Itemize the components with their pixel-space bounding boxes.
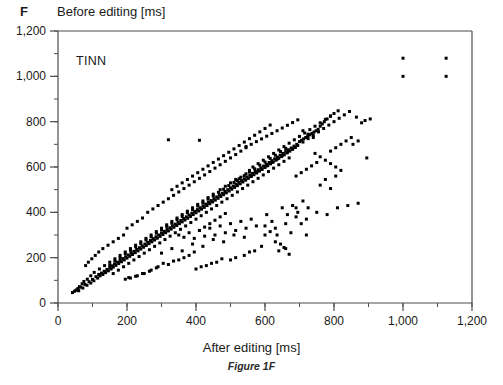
data-point [208,222,211,225]
data-point [215,204,218,207]
data-point [250,143,253,146]
data-point [89,274,92,277]
data-point [170,247,173,250]
data-point [207,164,210,167]
data-point [145,244,148,247]
data-point [239,220,242,223]
scatter-plot-canvas [0,0,503,385]
data-point [198,177,201,180]
data-point [336,206,339,209]
data-point [250,218,253,221]
data-point [181,249,184,252]
data-point [191,243,194,246]
data-point [245,146,248,149]
data-point [319,121,322,124]
data-point [355,116,358,119]
data-point [232,181,235,184]
data-point [107,244,110,247]
data-point [253,249,256,252]
data-point [277,249,280,252]
data-point [260,137,263,140]
data-point [213,234,216,237]
data-point [129,247,132,250]
data-point [203,226,206,229]
data-point [264,127,267,130]
data-point [324,159,327,162]
data-point [108,261,111,264]
data-point [142,246,145,249]
data-point [234,229,237,232]
data-point [229,258,232,261]
data-point [293,138,296,141]
data-point [269,124,272,127]
data-point [132,258,135,261]
data-point [155,230,158,233]
data-point [241,187,244,190]
data-point [265,164,268,167]
data-point [248,251,251,254]
y-tick-label: 1,200 [0,25,46,37]
x-axis-title: After editing [ms] [0,340,503,355]
data-point [333,112,336,115]
data-point [170,228,173,231]
data-point [243,141,246,144]
data-point [192,213,195,216]
data-point [117,237,120,240]
data-point [334,175,337,178]
data-point [184,224,187,227]
data-point [188,231,191,234]
data-point [172,194,175,197]
x-tick-label: 1,000 [373,315,433,327]
data-point [334,166,337,169]
data-point [186,178,189,181]
data-point [281,127,284,130]
data-point [117,262,120,265]
data-point [238,144,241,147]
data-point [326,213,329,216]
data-point [270,161,273,164]
data-point [300,171,303,174]
data-point [258,130,261,133]
data-point [339,143,342,146]
data-point [103,264,106,267]
data-point [177,258,180,261]
data-point [234,256,237,259]
data-point [104,271,107,274]
data-point [163,238,166,241]
data-point [296,118,299,121]
data-point [210,262,213,265]
data-point [189,221,192,224]
data-point [307,133,310,136]
data-point [348,110,351,113]
data-point [207,196,210,199]
data-point [329,150,332,153]
data-point [360,121,363,124]
data-point [203,173,206,176]
data-point [229,181,232,184]
data-point [224,212,227,215]
y-tick-label: 1,000 [0,70,46,82]
data-point [327,124,330,127]
data-point [161,233,164,236]
data-point [227,151,230,154]
data-point [234,153,237,156]
data-point [191,206,194,209]
data-point [251,166,254,169]
data-point [159,235,162,238]
data-point [167,197,170,200]
data-point [255,140,258,143]
data-point [206,204,209,207]
data-point [122,234,125,237]
data-point [148,270,151,273]
data-point [232,234,235,237]
data-point [122,265,125,268]
data-points-layer [71,57,448,294]
data-point [308,128,311,131]
data-point [177,234,180,237]
data-point [369,117,372,120]
data-point [364,119,367,122]
data-point [245,172,248,175]
data-point [213,219,216,222]
data-point [222,188,225,191]
data-point [107,269,110,272]
